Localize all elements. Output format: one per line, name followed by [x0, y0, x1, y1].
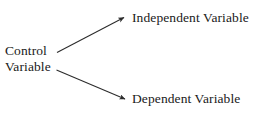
node-control-variable-line1: Control	[5, 43, 51, 59]
variable-relationship-diagram: Control Variable Independent Variable De…	[0, 0, 255, 120]
node-independent-variable: Independent Variable	[132, 10, 249, 26]
node-dependent-variable: Dependent Variable	[132, 91, 240, 107]
arrow-control-to-independent	[57, 18, 124, 53]
node-control-variable: Control Variable	[5, 43, 51, 74]
arrow-control-to-dependent	[57, 70, 126, 99]
node-control-variable-line2: Variable	[5, 59, 51, 75]
